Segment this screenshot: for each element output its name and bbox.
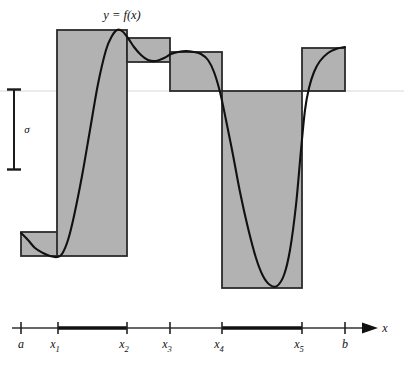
step-rectangle bbox=[222, 91, 302, 288]
axis-tick-label-x1: x1 bbox=[49, 337, 60, 354]
axis-tick-label-x2: x2 bbox=[118, 337, 129, 354]
sigma-measure-bar bbox=[7, 89, 21, 170]
axis-tick-labels-group: ax1x2x3x4x5b bbox=[18, 337, 348, 354]
axis-tick-label-x3: x3 bbox=[161, 337, 172, 354]
axis-arrowhead bbox=[362, 323, 378, 334]
axis-tick-label-x4: x4 bbox=[213, 337, 224, 354]
curve-label: y = f(x) bbox=[101, 8, 141, 22]
step-rectangles-group bbox=[21, 30, 345, 288]
axis-variable-label: x bbox=[381, 321, 388, 335]
figure-canvas: y = f(x) σ ax1x2x3x4x5b x bbox=[0, 0, 404, 366]
step-rectangle bbox=[57, 30, 127, 256]
riemann-sum-figure: y = f(x) σ ax1x2x3x4x5b x bbox=[0, 0, 404, 366]
axis-tick-label-a: a bbox=[18, 337, 24, 351]
step-rectangle bbox=[21, 232, 58, 256]
step-rectangle bbox=[302, 48, 345, 91]
x-axis: ax1x2x3x4x5b x bbox=[12, 321, 388, 354]
axis-tick-label-b: b bbox=[342, 337, 348, 351]
sigma-label: σ bbox=[24, 123, 30, 135]
axis-tick-label-x5: x5 bbox=[293, 337, 304, 354]
